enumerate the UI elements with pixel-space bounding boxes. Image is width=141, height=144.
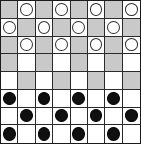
board-square-r8c4[interactable] xyxy=(53,125,70,143)
board-square-r2c2[interactable] xyxy=(18,19,35,37)
board-square-r6c7[interactable] xyxy=(105,90,122,108)
board-square-r1c2[interactable] xyxy=(18,1,35,19)
white-piece[interactable] xyxy=(107,21,120,34)
board-square-r4c8[interactable] xyxy=(123,54,140,72)
board-square-r8c2[interactable] xyxy=(18,125,35,143)
black-piece[interactable] xyxy=(55,109,68,122)
board-square-r5c2[interactable] xyxy=(18,72,35,90)
black-piece[interactable] xyxy=(107,127,120,141)
board-square-r5c4[interactable] xyxy=(53,72,70,90)
board-square-r1c5[interactable] xyxy=(71,1,88,19)
white-piece[interactable] xyxy=(72,21,85,34)
board-square-r4c2[interactable] xyxy=(18,54,35,72)
black-piece[interactable] xyxy=(107,92,120,105)
black-piece[interactable] xyxy=(3,92,16,105)
board-square-r8c1[interactable] xyxy=(1,125,18,143)
board-square-r2c8[interactable] xyxy=(123,19,140,37)
white-piece[interactable] xyxy=(90,38,103,51)
board-square-r5c1[interactable] xyxy=(1,72,18,90)
checkers-board[interactable] xyxy=(0,0,141,144)
board-square-r7c5[interactable] xyxy=(71,108,88,126)
board-square-r4c1[interactable] xyxy=(1,54,18,72)
board-square-r1c6[interactable] xyxy=(88,1,105,19)
white-piece[interactable] xyxy=(55,38,68,51)
board-square-r3c1[interactable] xyxy=(1,37,18,55)
board-square-r3c4[interactable] xyxy=(53,37,70,55)
board-square-r1c3[interactable] xyxy=(36,1,53,19)
board-square-r5c3[interactable] xyxy=(36,72,53,90)
board-square-r8c7[interactable] xyxy=(105,125,122,143)
board-square-r2c4[interactable] xyxy=(53,19,70,37)
board-square-r4c5[interactable] xyxy=(71,54,88,72)
board-square-r4c4[interactable] xyxy=(53,54,70,72)
board-square-r7c2[interactable] xyxy=(18,108,35,126)
board-square-r1c4[interactable] xyxy=(53,1,70,19)
white-piece[interactable] xyxy=(125,3,139,16)
board-square-r5c5[interactable] xyxy=(71,72,88,90)
board-square-r1c8[interactable] xyxy=(123,1,140,19)
board-square-r6c6[interactable] xyxy=(88,90,105,108)
board-square-r7c8[interactable] xyxy=(123,108,140,126)
board-square-r8c6[interactable] xyxy=(88,125,105,143)
board-square-r8c3[interactable] xyxy=(36,125,53,143)
board-square-r5c6[interactable] xyxy=(88,72,105,90)
board-square-r3c6[interactable] xyxy=(88,37,105,55)
board-square-r4c6[interactable] xyxy=(88,54,105,72)
white-piece[interactable] xyxy=(20,3,33,16)
board-square-r2c7[interactable] xyxy=(105,19,122,37)
board-square-r6c3[interactable] xyxy=(36,90,53,108)
board-square-r3c5[interactable] xyxy=(71,37,88,55)
black-piece[interactable] xyxy=(125,109,139,122)
black-piece[interactable] xyxy=(72,127,85,141)
board-square-r6c5[interactable] xyxy=(71,90,88,108)
black-piece[interactable] xyxy=(72,92,85,105)
board-square-r2c5[interactable] xyxy=(71,19,88,37)
checkers-board-wrapper: Checkers Board xyxy=(0,0,141,144)
board-square-r3c8[interactable] xyxy=(123,37,140,55)
board-square-r4c7[interactable] xyxy=(105,54,122,72)
black-piece[interactable] xyxy=(38,127,51,141)
white-piece[interactable] xyxy=(55,3,68,16)
board-square-r7c3[interactable] xyxy=(36,108,53,126)
board-square-r5c8[interactable] xyxy=(123,72,140,90)
board-square-r6c2[interactable] xyxy=(18,90,35,108)
black-piece[interactable] xyxy=(38,92,51,105)
board-square-r4c3[interactable] xyxy=(36,54,53,72)
board-square-r8c5[interactable] xyxy=(71,125,88,143)
board-square-r7c1[interactable] xyxy=(1,108,18,126)
board-square-r3c3[interactable] xyxy=(36,37,53,55)
board-square-r6c4[interactable] xyxy=(53,90,70,108)
board-square-r3c7[interactable] xyxy=(105,37,122,55)
board-square-r8c8[interactable] xyxy=(123,125,140,143)
board-square-r7c7[interactable] xyxy=(105,108,122,126)
board-square-r1c7[interactable] xyxy=(105,1,122,19)
board-square-r7c4[interactable] xyxy=(53,108,70,126)
black-piece[interactable] xyxy=(90,109,103,122)
black-piece[interactable] xyxy=(3,127,16,141)
board-square-r3c2[interactable] xyxy=(18,37,35,55)
board-square-r1c1[interactable] xyxy=(1,1,18,19)
white-piece[interactable] xyxy=(38,21,51,34)
board-square-r6c8[interactable] xyxy=(123,90,140,108)
black-piece[interactable] xyxy=(20,109,33,122)
board-square-r5c7[interactable] xyxy=(105,72,122,90)
white-piece[interactable] xyxy=(90,3,103,16)
board-square-r2c1[interactable] xyxy=(1,19,18,37)
white-piece[interactable] xyxy=(20,38,33,51)
board-square-r2c3[interactable] xyxy=(36,19,53,37)
board-square-r6c1[interactable] xyxy=(1,90,18,108)
white-piece[interactable] xyxy=(125,38,139,51)
board-square-r7c6[interactable] xyxy=(88,108,105,126)
white-piece[interactable] xyxy=(3,21,16,34)
board-square-r2c6[interactable] xyxy=(88,19,105,37)
